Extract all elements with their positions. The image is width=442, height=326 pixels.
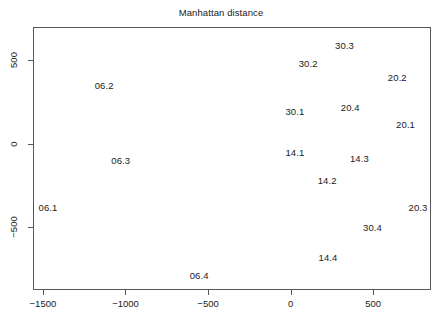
data-point-label: 06.3 [111,154,130,165]
data-point-label: 30.1 [285,106,304,117]
data-point-label: 20.1 [396,119,415,130]
data-point-label: 06.2 [95,79,114,90]
y-axis-tick-label: 500 [8,52,19,68]
y-axis-tick-label: 0 [8,141,19,146]
y-axis-tick [28,144,33,145]
page-title: Manhattan distance [0,7,442,18]
x-axis-tick [208,290,209,295]
data-point-label: 14.4 [319,252,338,263]
x-axis-tick-label: −1500 [30,298,57,309]
data-point-label: 20.2 [388,71,407,82]
data-point-label: 30.2 [299,58,318,69]
x-axis-tick-label: −500 [197,298,218,309]
data-point-label: 20.4 [341,102,360,113]
x-axis-tick-label: 500 [365,298,381,309]
plot-panel: 30.330.220.206.230.120.420.114.114.306.3… [33,27,431,290]
x-axis-tick [125,290,126,295]
y-axis-tick [28,60,33,61]
data-point-label: 14.2 [318,174,337,185]
data-point-label: 06.1 [39,202,58,213]
chart-canvas: Manhattan distance 30.330.220.206.230.12… [0,0,442,326]
x-axis-tick [291,290,292,295]
x-axis-tick [373,290,374,295]
data-points-layer: 30.330.220.206.230.120.420.114.114.306.3… [34,28,430,289]
y-axis-tick-label: −500 [8,216,19,237]
data-point-label: 14.3 [350,152,369,163]
x-axis-tick-label: −1000 [112,298,139,309]
data-point-label: 14.1 [285,146,304,157]
data-point-label: 20.3 [409,202,428,213]
data-point-label: 06.4 [190,270,209,281]
x-axis-tick-label: 0 [288,298,293,309]
data-point-label: 30.3 [335,40,354,51]
x-axis-tick [43,290,44,295]
y-axis-tick [28,227,33,228]
data-point-label: 30.4 [363,221,382,232]
